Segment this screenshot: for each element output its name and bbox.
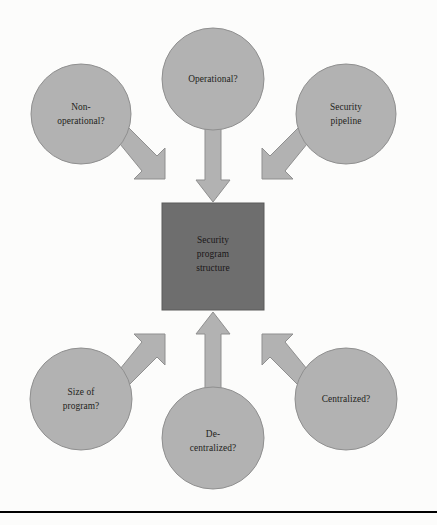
size-of-program-node-shape [30,348,132,450]
security-pipeline-node-label-line-1: Security [330,102,362,112]
de-centralized-node-label-line-2: centralized? [190,443,236,453]
arrow-de-centralized [196,312,230,396]
security-program-structure-diagram: Security program structure Non- operatio… [0,0,437,525]
size-of-program-node-label-line-2: program? [63,401,100,411]
non-operational-node[interactable]: Non- operational? [31,64,131,164]
security-pipeline-node-label-line-2: pipeline [331,116,362,126]
diagram-page: Security program structure Non- operatio… [0,0,437,525]
operational-node[interactable]: Operational? [162,28,264,130]
footer-divider [0,511,437,513]
de-centralized-node-label-line-1: De- [206,429,220,439]
operational-node-label-line-1: Operational? [188,74,238,84]
center-node-label-line-3: structure [196,263,230,273]
non-operational-node-label-line-1: Non- [71,102,91,112]
non-operational-node-shape [31,64,131,164]
centralized-node[interactable]: Centralized? [295,348,397,450]
size-of-program-node-label-line-1: Size of [68,387,96,397]
center-node[interactable]: Security program structure [162,203,264,310]
center-node-label-line-1: Security [197,235,229,245]
de-centralized-node[interactable]: De- centralized? [162,387,264,489]
arrow-operational [196,118,230,202]
center-node-label-line-2: program [197,249,230,259]
non-operational-node-label-line-2: operational? [57,116,105,126]
centralized-node-label-line-1: Centralized? [322,394,371,404]
security-pipeline-node[interactable]: Security pipeline [296,64,396,164]
size-of-program-node[interactable]: Size of program? [30,348,132,450]
security-pipeline-node-shape [296,64,396,164]
